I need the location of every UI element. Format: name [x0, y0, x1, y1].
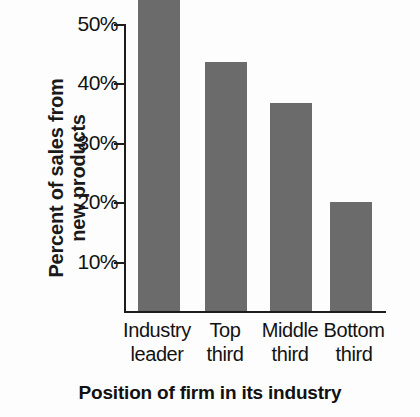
y-tick-mark-50 — [114, 24, 126, 26]
bar-industry-leader — [138, 0, 180, 311]
bar-chart-figure: Percent of sales from new products 50% 4… — [0, 0, 420, 417]
x-axis-title: Position of firm in its industry — [0, 382, 420, 404]
x-axis-line — [124, 311, 386, 313]
x-axis-category-labels: Industry leader Top third Middle third B… — [124, 318, 392, 374]
y-tick-mark-20 — [114, 202, 126, 204]
bar-bottom-third — [330, 202, 372, 311]
bar-middle-third — [270, 103, 312, 311]
category-label-bottom-third: Bottom third — [306, 318, 402, 367]
y-tick-mark-30 — [114, 143, 126, 145]
category-label-line-2: third — [306, 342, 402, 366]
y-tick-label-50: 50% — [48, 12, 118, 36]
y-tick-label-10: 10% — [48, 250, 118, 274]
y-axis-tick-labels: 50% 40% 30% 20% 10% — [46, 0, 118, 417]
plot-area — [124, 20, 392, 313]
y-tick-mark-10 — [114, 262, 126, 264]
bar-top-third — [205, 62, 247, 311]
y-tick-label-30: 30% — [48, 131, 118, 155]
category-label-line-1: Bottom — [306, 318, 402, 342]
y-axis-line — [124, 24, 126, 313]
y-tick-label-40: 40% — [48, 71, 118, 95]
y-tick-label-20: 20% — [48, 190, 118, 214]
y-tick-mark-40 — [114, 83, 126, 85]
